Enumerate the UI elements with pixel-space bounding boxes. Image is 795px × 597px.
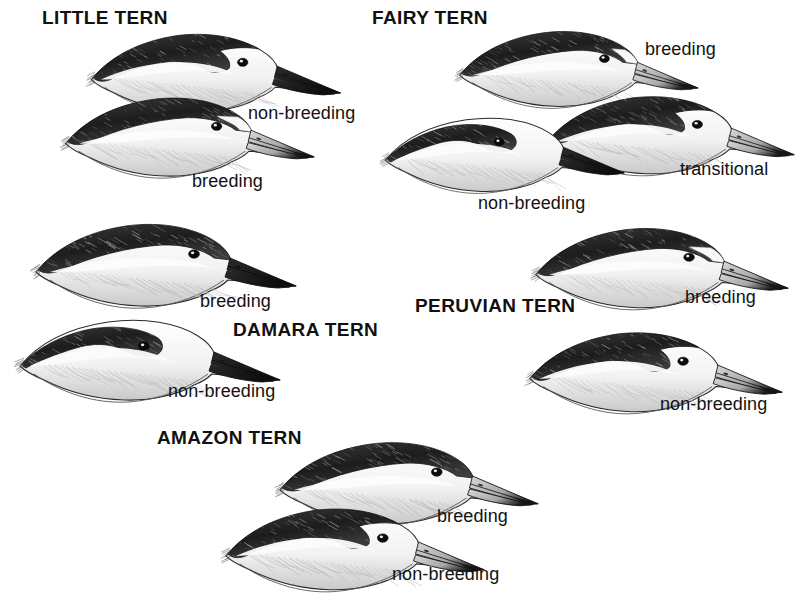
plumage-label-peruvian-tern-breeding: breeding: [685, 288, 756, 306]
tern-head-fairy-tern-non-breeding: [378, 105, 626, 197]
tern-head-little-tern-breeding: [58, 88, 316, 180]
illustration-plate: LITTLE TERNnon-breedingbreedingFAIRY TER…: [0, 0, 795, 597]
plumage-label-fairy-tern-breeding: breeding: [645, 40, 716, 58]
plumage-label-peruvian-tern-non-breeding: non-breeding: [660, 395, 767, 413]
plumage-label-fairy-tern-non-breeding: non-breeding: [478, 194, 585, 212]
plumage-label-damara-tern-non-breeding: non-breeding: [168, 382, 275, 400]
plumage-label-amazon-tern-non-breeding: non-breeding: [392, 565, 499, 583]
plumage-label-fairy-tern-transitional: transitional: [680, 160, 768, 178]
plumage-label-little-tern-breeding: breeding: [192, 172, 263, 190]
